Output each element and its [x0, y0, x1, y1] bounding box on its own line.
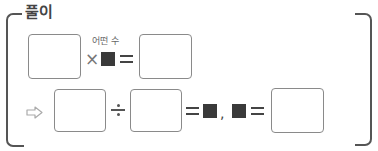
equals-sign — [120, 55, 133, 63]
answer-box-5[interactable] — [271, 88, 324, 133]
divide-sign — [111, 104, 125, 116]
multiply-sign: × — [85, 51, 99, 68]
answer-box-2[interactable] — [139, 34, 192, 79]
answer-box-1[interactable] — [28, 34, 81, 79]
unknown-square-icon — [203, 104, 217, 118]
comma-separator: , — [220, 106, 224, 120]
unknown-number-label: 어떤 수 — [92, 36, 119, 46]
unknown-square-icon — [232, 104, 246, 118]
answer-box-4[interactable] — [130, 89, 182, 132]
unknown-square-icon — [101, 52, 115, 66]
answer-box-3[interactable] — [54, 89, 106, 132]
equals-sign — [251, 107, 264, 115]
right-arrow-icon — [26, 104, 43, 123]
right-bracket — [355, 13, 372, 146]
section-title: 풀이 — [22, 3, 57, 21]
equals-sign — [186, 107, 199, 115]
left-bracket — [6, 13, 24, 147]
